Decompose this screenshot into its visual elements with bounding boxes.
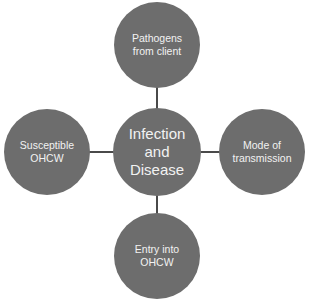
node-pathogens-from-client: Pathogens from client: [114, 2, 200, 88]
node-susceptible-ohcw: Susceptible OHCW: [4, 109, 90, 195]
node-label-line: OHCW: [20, 152, 74, 165]
node-label-line: Pathogens: [132, 32, 182, 45]
node-label-line: Entry into: [135, 243, 179, 256]
connector-right: [201, 151, 220, 153]
center-label-line: Disease: [129, 161, 186, 179]
node-infection-and-disease: Infection and Disease: [113, 108, 201, 196]
node-label-line: from client: [132, 45, 182, 58]
node-label-line: transmission: [233, 152, 292, 165]
center-label-line: and: [129, 143, 186, 161]
connector-left: [89, 151, 114, 153]
node-mode-of-transmission: Mode of transmission: [219, 109, 305, 195]
node-label-line: Mode of: [233, 139, 292, 152]
node-entry-into-ohcw: Entry into OHCW: [114, 213, 200, 299]
connector-bottom: [156, 195, 158, 215]
node-label-line: Susceptible: [20, 139, 74, 152]
node-label-line: OHCW: [135, 256, 179, 269]
center-label-line: Infection: [129, 125, 186, 143]
connector-top: [156, 86, 158, 110]
